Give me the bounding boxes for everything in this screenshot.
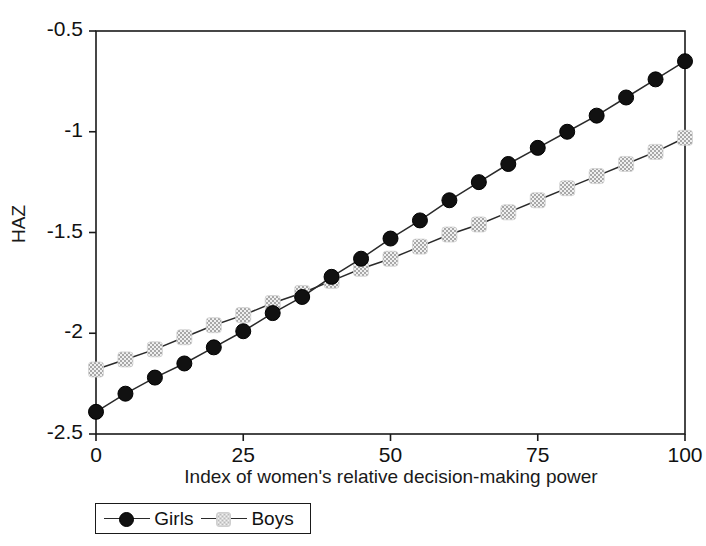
x-axis-label: Index of women's relative decision-makin… — [96, 466, 686, 488]
legend-item-girls: Girls — [104, 508, 201, 530]
chart-legend: Girls Boys — [95, 503, 311, 534]
legend-swatch-boys — [201, 510, 247, 528]
y-tick-label: -1 — [11, 118, 83, 142]
series-line-girls — [89, 54, 693, 420]
series-line-boys — [89, 130, 693, 377]
x-tick-label: 50 — [356, 443, 426, 467]
legend-label-boys: Boys — [251, 508, 293, 530]
x-tick-label: 100 — [650, 443, 706, 467]
y-tick-label: -0.5 — [11, 17, 83, 41]
legend-swatch-girls — [104, 510, 150, 528]
y-tick-label: -2 — [11, 319, 83, 343]
y-tick-label: -2.5 — [11, 420, 83, 444]
legend-label-girls: Girls — [154, 508, 193, 530]
x-tick-label: 25 — [208, 443, 278, 467]
chart-figure: HAZ Index of women's relative decision-m… — [0, 0, 706, 546]
legend-item-boys: Boys — [201, 508, 301, 530]
x-tick-label: 75 — [503, 443, 573, 467]
x-tick-label: 0 — [61, 443, 131, 467]
y-tick-label: -1.5 — [11, 219, 83, 243]
